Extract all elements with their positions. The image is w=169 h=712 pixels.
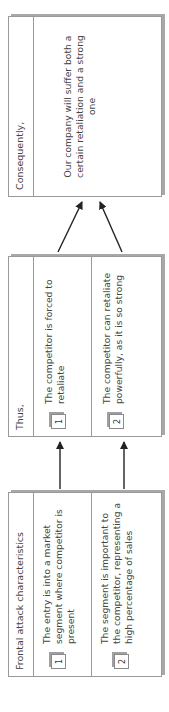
arrows [0, 0, 169, 712]
arrow-thus2-to-consequently [100, 202, 122, 252]
arrow-thus1-to-consequently [58, 202, 82, 252]
diagram-canvas: Frontal attack characteristics 1 The ent… [0, 0, 169, 712]
